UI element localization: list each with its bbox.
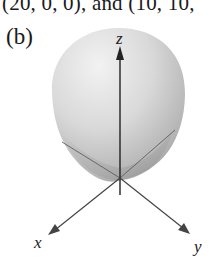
- x-axis-label: x: [33, 233, 42, 252]
- x-axis: [48, 178, 120, 235]
- y-axis-label: y: [192, 237, 202, 256]
- y-axis: [120, 178, 190, 234]
- paraboloid-surface: [52, 28, 185, 182]
- z-axis-label: z: [115, 29, 123, 48]
- paraboloid-figure: z x y: [0, 0, 209, 263]
